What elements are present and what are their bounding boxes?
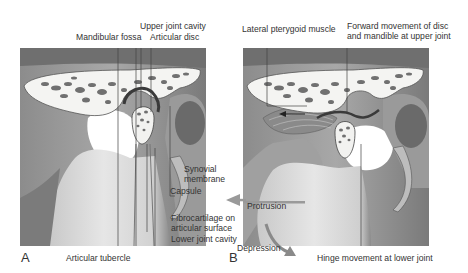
label-forward-movement-line-2: and mandible at upper joint: [347, 31, 451, 41]
label-fibrocartilage-line-2: articular surface: [171, 223, 232, 233]
label-fibrocartilage-line-1: Fibrocartilage on: [171, 213, 235, 223]
label-forward-movement-line-1: Forward movement of disc: [347, 21, 448, 31]
panel-b-illustration: [243, 48, 429, 246]
panel-letter-a: A: [21, 250, 30, 265]
label-synovial-line-2: membrane: [184, 174, 225, 184]
label-synovial-membrane: Synovial membrane: [184, 164, 225, 184]
label-lower-joint-cavity: Lower joint cavity: [171, 234, 237, 244]
label-protrusion: Protrusion: [247, 201, 286, 211]
label-articular-disc: Articular disc: [150, 32, 199, 42]
label-depression: Depression: [237, 243, 280, 253]
label-forward-movement: Forward movement of disc and mandible at…: [347, 21, 451, 41]
label-fibrocartilage: Fibrocartilage on articular surface: [171, 213, 235, 233]
depression-arrow-icon: [262, 220, 302, 260]
label-upper-joint-cavity: Upper joint cavity: [140, 21, 206, 31]
label-mandibular-fossa: Mandibular fossa: [76, 32, 141, 42]
protrusion-arrow-icon: [226, 194, 246, 206]
label-synovial-line-1: Synovial: [184, 164, 216, 174]
label-lateral-pterygoid-muscle: Lateral pterygoid muscle: [242, 24, 336, 34]
tmj-open-illustration: [243, 48, 429, 246]
panel-letter-b: B: [229, 250, 238, 265]
label-articular-tubercle: Articular tubercle: [66, 253, 130, 263]
label-hinge-movement: Hinge movement at lower joint: [317, 253, 433, 263]
label-capsule: Capsule: [170, 186, 202, 196]
